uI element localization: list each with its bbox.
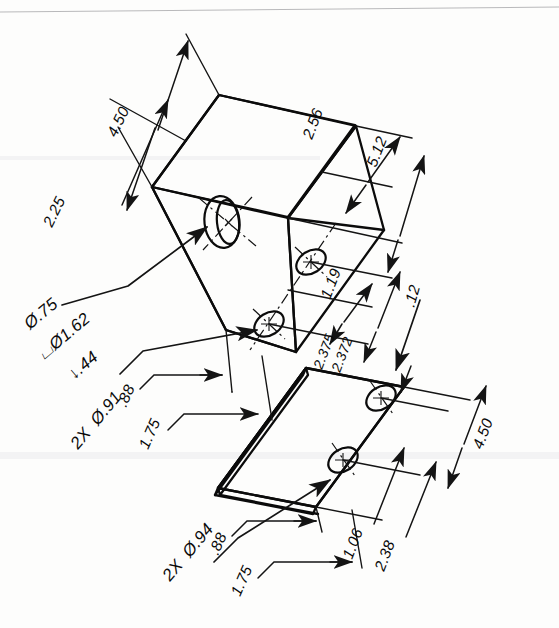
dimension-label-2-56: 2.56 (299, 106, 326, 142)
block-holes-callout-label: 2X Ø.91 (66, 388, 125, 454)
counterbore-callout-block: Ø.75 ⌴Ø1.62 ↓.44 (20, 294, 102, 383)
dimension-label-5-12: 5.12 (363, 134, 390, 169)
scan-artifact-lines (0, 7, 559, 459)
drawing-sheet: 4.50 2.25 2.56 5.12 1.19 2.375 2.372 .88… (0, 0, 559, 628)
dimension-label-1-19: 1.19 (317, 266, 344, 301)
counterbore-line-3: ↓.44 (64, 347, 101, 383)
isometric-drawing-canvas: 4.50 2.25 2.56 5.12 1.19 2.375 2.372 .88… (0, 0, 559, 628)
dimension-2-38 (381, 398, 448, 537)
dimension-label-2-38: 2.38 (371, 538, 398, 574)
dimension-2-25 (98, 86, 186, 262)
main-block-outline (152, 95, 391, 352)
dimension-4-50-top (118, 34, 219, 216)
dimension-88-175-block-inner-arrows (200, 375, 290, 392)
dimension-1-06 (343, 398, 452, 524)
block-holes-leader (120, 330, 257, 374)
dimension-label-175-plate: 1.75 (227, 563, 255, 598)
counterbore-leader (62, 227, 207, 305)
dimension-label-1-06: 1.06 (339, 526, 366, 561)
dimension-label-2-25: 2.25 (39, 194, 68, 230)
dimension-label-175-block: 1.75 (135, 416, 163, 451)
counterbore-line-1: Ø.75 (20, 294, 62, 334)
dimension-2-56 (288, 126, 412, 231)
dimension-label-12: .12 (401, 283, 423, 309)
